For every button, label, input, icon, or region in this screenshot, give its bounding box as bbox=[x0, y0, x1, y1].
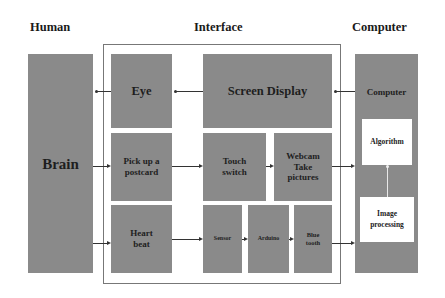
arrowhead-computer-to-screen bbox=[334, 90, 337, 93]
arrowhead-brain-to-heart bbox=[107, 241, 111, 245]
arrowhead-touch-to-webcam bbox=[270, 164, 274, 168]
arrowhead-sensor-to-arduino bbox=[244, 237, 248, 241]
sensor-label: Sensor bbox=[214, 235, 231, 242]
arrowhead-screen-to-eye bbox=[174, 90, 177, 93]
image-processing-label-1: Image bbox=[370, 209, 404, 219]
algorithm-arrowhead bbox=[386, 165, 389, 168]
webcam-label-2: Take bbox=[286, 162, 320, 173]
screen-display-label: Screen Display bbox=[228, 84, 307, 99]
arrowhead-heart-to-sensor bbox=[199, 237, 203, 241]
arrowhead-eye-to-brain bbox=[95, 90, 98, 93]
image-processing-block: Image processing bbox=[360, 197, 414, 242]
image-to-algorithm-connector bbox=[387, 167, 388, 197]
pick-up-postcard-label-2: postcard bbox=[123, 167, 159, 178]
sensor-block: Sensor bbox=[203, 205, 242, 273]
pick-up-postcard-block: Pick up a postcard bbox=[111, 133, 172, 201]
arrow-brain-to-pickup bbox=[93, 166, 107, 167]
computer-label: Computer bbox=[367, 87, 407, 98]
eye-label: Eye bbox=[131, 84, 151, 99]
bluetooth-label-2: tooth bbox=[306, 239, 320, 247]
arrowhead-webcam-to-computer bbox=[351, 164, 355, 168]
arrow-computer-to-screen bbox=[336, 91, 355, 92]
brain-label: Brain bbox=[42, 155, 79, 173]
arrow-heart-to-sensor bbox=[172, 239, 199, 240]
header-interface: Interface bbox=[194, 20, 243, 35]
arduino-block: Arduino bbox=[248, 205, 289, 273]
arrow-webcam-to-computer bbox=[332, 166, 351, 167]
arrowhead-bluetooth-to-computer bbox=[351, 241, 355, 245]
image-processing-label-2: processing bbox=[370, 220, 404, 230]
heart-beat-block: Heart beat bbox=[111, 205, 172, 273]
touch-switch-label-1: Touch bbox=[222, 156, 247, 167]
webcam-label-3: pictures bbox=[286, 172, 320, 183]
touch-switch-block: Touch switch bbox=[203, 133, 266, 201]
arduino-label: Arduino bbox=[258, 235, 280, 242]
arrow-screen-to-eye bbox=[176, 91, 203, 92]
bluetooth-block: Blue tooth bbox=[294, 205, 332, 273]
arrow-bluetooth-to-computer bbox=[332, 243, 351, 244]
arrow-pickup-to-touch bbox=[172, 166, 199, 167]
arrow-brain-to-heart bbox=[93, 243, 107, 244]
algorithm-block: Algorithm bbox=[362, 119, 412, 165]
arrowhead-arduino-to-bluetooth bbox=[290, 237, 294, 241]
algorithm-label: Algorithm bbox=[370, 137, 403, 147]
arrowhead-brain-to-pickup bbox=[107, 164, 111, 168]
heart-beat-label-1: Heart bbox=[130, 228, 153, 239]
screen-display-block: Screen Display bbox=[203, 54, 332, 128]
arrow-eye-to-brain bbox=[97, 91, 111, 92]
arrowhead-pickup-to-touch bbox=[199, 164, 203, 168]
brain-block: Brain bbox=[28, 54, 93, 273]
heart-beat-label-2: beat bbox=[130, 239, 153, 250]
header-human: Human bbox=[30, 20, 70, 35]
bluetooth-label-1: Blue bbox=[306, 231, 320, 239]
eye-block: Eye bbox=[111, 54, 172, 128]
touch-switch-label-2: switch bbox=[222, 167, 247, 178]
pick-up-postcard-label-1: Pick up a bbox=[123, 156, 159, 167]
webcam-block: Webcam Take pictures bbox=[274, 133, 332, 201]
header-computer: Computer bbox=[352, 20, 407, 35]
webcam-label-1: Webcam bbox=[286, 151, 320, 162]
